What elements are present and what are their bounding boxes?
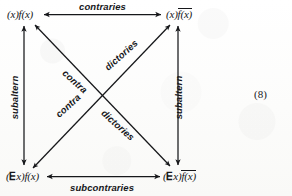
exists-symbol-bottom-right: ∃ — [166, 170, 173, 183]
relation-label-subcontraries: subcontraries — [70, 182, 134, 193]
proposition-top-left: (x)f(x) — [7, 8, 33, 20]
proposition-bottom-right: (∃x)f(x) — [163, 170, 196, 183]
quantifier-top-right: (x) — [166, 8, 178, 20]
arrow-contradictories-diagonal-b — [33, 25, 170, 168]
exists-symbol-bottom-left: ∃ — [9, 170, 16, 183]
predicate-top-right-negated: f(x) — [178, 8, 192, 21]
equation-number: (8) — [254, 88, 267, 100]
quantifier-top-left: (x) — [7, 8, 19, 20]
quantifier-bottom-right: (∃x) — [163, 170, 181, 182]
square-of-opposition-diagram — [0, 0, 292, 196]
proposition-top-right: (x)f(x) — [166, 8, 192, 21]
relation-label-contraries: contraries — [79, 1, 126, 12]
proposition-bottom-left: (∃x)f(x) — [6, 170, 39, 183]
relation-label-subaltern-left: subaltern — [9, 70, 20, 126]
predicate-bottom-right-negated: f(x) — [181, 170, 195, 183]
quantifier-bottom-left: (∃x) — [6, 170, 24, 182]
relation-label-subaltern-right: subaltern — [173, 70, 184, 126]
figure-canvas: (x)f(x) (x)f(x) (∃x)f(x) (∃x)f(x) contra… — [0, 0, 292, 196]
predicate-bottom-left: f(x) — [24, 170, 38, 182]
predicate-top-left: f(x) — [19, 8, 33, 20]
